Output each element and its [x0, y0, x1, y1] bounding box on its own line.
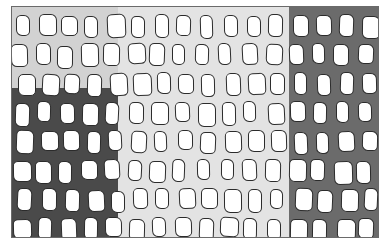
cell	[81, 159, 98, 179]
cell	[13, 161, 32, 182]
cell	[224, 130, 242, 152]
cell	[217, 43, 231, 66]
cell	[11, 43, 28, 66]
cell	[177, 130, 192, 150]
cell	[289, 219, 307, 238]
cell	[340, 189, 358, 212]
cell	[172, 44, 185, 65]
cell	[149, 160, 167, 183]
cell	[316, 15, 333, 36]
cell	[317, 74, 332, 96]
cell	[337, 130, 355, 152]
cell	[224, 189, 242, 213]
cell	[356, 160, 371, 183]
cell	[103, 158, 120, 180]
cell	[129, 101, 144, 123]
cell	[196, 158, 209, 179]
cell	[337, 218, 357, 238]
cell	[194, 43, 209, 64]
cell	[107, 130, 122, 152]
cell	[16, 15, 30, 36]
cell	[290, 101, 307, 122]
cell	[338, 14, 354, 38]
cell	[199, 14, 213, 38]
cell	[242, 159, 258, 182]
cell	[132, 188, 148, 209]
cell	[312, 43, 325, 64]
cell	[58, 161, 72, 184]
cell	[357, 217, 374, 238]
cell	[104, 217, 121, 237]
cell	[63, 130, 80, 151]
cell	[16, 188, 32, 212]
cell	[293, 72, 306, 95]
cell	[248, 189, 262, 213]
cell	[35, 161, 52, 184]
cell	[248, 130, 265, 152]
cell	[358, 44, 375, 65]
cell	[174, 217, 192, 237]
cell	[243, 101, 256, 122]
cell	[128, 43, 147, 65]
cell	[36, 42, 51, 64]
cell	[41, 73, 60, 96]
cell	[38, 217, 53, 238]
cell	[270, 189, 283, 209]
cell	[154, 14, 168, 38]
cell	[316, 132, 329, 154]
cell	[201, 188, 218, 209]
cell	[178, 187, 196, 209]
cell	[333, 44, 349, 66]
cell	[220, 217, 240, 238]
cell	[131, 16, 145, 38]
cell	[57, 45, 73, 68]
cell	[312, 219, 327, 238]
cell	[293, 14, 309, 36]
cell	[265, 44, 283, 66]
cell	[42, 188, 57, 211]
cell	[247, 15, 261, 36]
cell	[107, 13, 127, 38]
cell	[294, 188, 313, 212]
cell	[362, 16, 379, 39]
cell	[198, 103, 216, 127]
cell	[16, 129, 35, 154]
cell	[87, 131, 101, 154]
cell	[313, 102, 327, 124]
cell	[268, 103, 286, 126]
cell	[81, 43, 100, 67]
cell	[153, 130, 167, 151]
cell	[270, 73, 285, 95]
cell	[243, 218, 257, 238]
cell	[176, 15, 192, 36]
cell	[128, 219, 145, 238]
cell	[339, 71, 354, 94]
cell	[247, 72, 266, 95]
cell	[361, 73, 377, 94]
cell	[293, 131, 308, 155]
cell	[362, 131, 379, 151]
cell	[151, 217, 166, 237]
cell	[13, 218, 33, 238]
cell	[265, 158, 281, 181]
cell	[18, 74, 36, 96]
cell	[271, 130, 288, 152]
cell	[36, 101, 50, 122]
cell	[65, 189, 81, 212]
cell	[220, 158, 233, 179]
cell	[82, 103, 99, 126]
cell	[151, 102, 169, 125]
cell	[61, 16, 78, 36]
cell	[87, 73, 103, 96]
cell	[156, 72, 170, 94]
cell	[175, 102, 191, 123]
cell	[155, 188, 169, 209]
cell	[226, 73, 242, 96]
cell	[132, 73, 152, 97]
cell	[39, 14, 57, 36]
cell	[109, 72, 128, 96]
cell	[102, 43, 119, 66]
cell	[200, 132, 217, 155]
cell	[309, 159, 325, 181]
cell	[316, 189, 333, 213]
